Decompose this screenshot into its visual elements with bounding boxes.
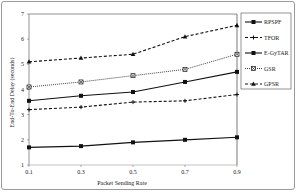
- series-gsr: [27, 52, 239, 89]
- series-gpsr: [27, 23, 240, 64]
- y-axis-label: End-To-End Delay (seconds): [9, 58, 16, 128]
- plus-marker: [235, 93, 239, 97]
- square-marker: [131, 90, 135, 94]
- square-marker: [183, 80, 187, 84]
- line-chart: 12345670.10.30.50.70.9Packet Sending Rat…: [0, 0, 297, 192]
- square-marker: [235, 70, 239, 74]
- x-tick-label: 0.9: [233, 169, 241, 175]
- legend-label: GSR: [264, 66, 276, 72]
- x-axis-label: Packet Sending Rate: [97, 180, 147, 186]
- legend-label: GPSR: [264, 81, 279, 87]
- plus-marker: [183, 99, 187, 103]
- plus-marker: [131, 100, 135, 104]
- y-tick-label: 4: [21, 87, 24, 93]
- x-tick-label: 0.1: [25, 169, 33, 175]
- square-marker: [27, 99, 31, 103]
- legend-label: RPSPF: [264, 19, 282, 25]
- y-tick-label: 3: [21, 112, 24, 118]
- triangle-marker: [235, 23, 240, 27]
- square-marker: [183, 138, 187, 142]
- y-tick-label: 2: [21, 137, 24, 143]
- y-tick-label: 6: [21, 36, 24, 42]
- y-tick-label: 5: [21, 61, 24, 67]
- y-tick-label: 7: [21, 11, 24, 17]
- legend-label: TFOR: [264, 35, 279, 41]
- series-rpspf: [27, 135, 239, 149]
- square-marker: [131, 140, 135, 144]
- y-tick-label: 1: [21, 162, 24, 168]
- series-tfor: [27, 93, 239, 112]
- series-line: [29, 25, 237, 61]
- square-marker: [235, 135, 239, 139]
- square-marker: [79, 144, 83, 148]
- x-tick-label: 0.7: [181, 169, 189, 175]
- legend: RPSPFTFORE-GyTARGSRGPSR: [241, 13, 291, 89]
- plus-marker: [27, 108, 31, 112]
- plus-marker: [79, 105, 83, 109]
- x-tick-label: 0.3: [77, 169, 85, 175]
- square-marker: [27, 145, 31, 149]
- square-marker: [252, 20, 256, 24]
- legend-label: E-GyTAR: [264, 50, 289, 56]
- square-marker: [252, 51, 256, 55]
- x-tick-label: 0.5: [129, 169, 137, 175]
- square-marker: [79, 94, 83, 98]
